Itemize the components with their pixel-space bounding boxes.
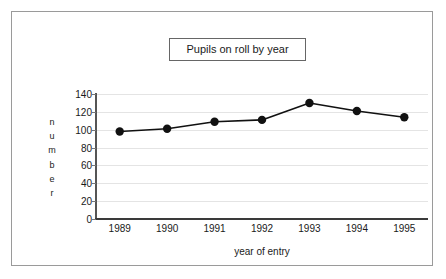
y-axis-tick-label: 20 [46, 196, 92, 207]
data-point [210, 117, 218, 125]
x-axis-tick-label: 1991 [192, 223, 238, 234]
data-point [400, 113, 408, 121]
y-axis-tick-label: 0 [46, 214, 92, 225]
x-axis-tick-label: 1990 [144, 223, 190, 234]
x-axis-tick-labels: 1989199019911992199319941995 [96, 223, 428, 239]
y-axis-tick-mark [92, 219, 96, 220]
data-point [163, 125, 171, 133]
data-point [258, 116, 266, 124]
y-axis-tick-labels: 140120100806040200 [44, 94, 92, 219]
x-axis-tick-label: 1995 [381, 223, 427, 234]
data-point [353, 107, 361, 115]
y-axis-tick-label: 40 [46, 178, 92, 189]
chart-title: Pupils on roll by year [186, 44, 288, 55]
y-axis-tick-label: 80 [46, 142, 92, 153]
data-point [116, 127, 124, 135]
x-axis-tick-label: 1989 [97, 223, 143, 234]
chart-outer-frame: Pupils on roll by year n u m b e r 14012… [11, 11, 433, 266]
data-point [305, 99, 313, 107]
data-series [96, 94, 428, 219]
x-axis-tick-label: 1992 [239, 223, 285, 234]
chart-title-box: Pupils on roll by year [169, 38, 306, 61]
x-axis-title: year of entry [96, 246, 428, 257]
x-axis-tick-label: 1993 [286, 223, 332, 234]
x-axis-tick-label: 1994 [334, 223, 380, 234]
y-axis-tick-label: 120 [46, 106, 92, 117]
y-axis-tick-label: 140 [46, 89, 92, 100]
chart-screenshot: Pupils on roll by year n u m b e r 14012… [0, 0, 446, 279]
y-axis-tick-label: 60 [46, 160, 92, 171]
series-markers [116, 99, 409, 136]
y-axis-tick-label: 100 [46, 124, 92, 135]
